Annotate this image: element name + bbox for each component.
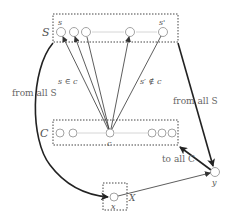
reduction-diagram: S s s' C c s ∈ c s′ ∉ c from all S from …: [0, 0, 228, 223]
set-C-element: [168, 129, 176, 137]
node-y: [211, 168, 220, 177]
label-s-in-c: s ∈ c: [58, 77, 78, 86]
set-C-box: [53, 120, 178, 145]
set-C-label: C: [40, 127, 49, 140]
element-s-prime-label: s': [159, 18, 165, 27]
node-y-label: y: [211, 178, 217, 187]
element-s-label: s: [58, 18, 62, 27]
set-C-element: [56, 129, 64, 137]
element-c-label: c: [107, 139, 112, 148]
node-X-box-label: X: [128, 193, 136, 203]
set-S-label: S: [42, 26, 50, 39]
label-from-all-S-left: from all S: [12, 88, 57, 98]
node-x: [110, 193, 118, 201]
set-S-element: [82, 28, 91, 37]
label-from-all-S-right: from all S: [173, 96, 218, 106]
set-S-element: [126, 28, 135, 37]
set-C-element-c: [106, 129, 114, 137]
set-S-element-s-prime: [159, 28, 168, 37]
set-S-element-s: [57, 28, 66, 37]
set-S-element: [70, 28, 79, 37]
set-C-element: [69, 129, 77, 137]
set-C-element: [148, 129, 156, 137]
node-x-label: x: [111, 202, 116, 211]
set-C-element: [158, 129, 166, 137]
label-to-all-C: to all C: [162, 154, 195, 164]
label-s-prime-not-in-c: s′ ∉ c: [140, 77, 162, 86]
